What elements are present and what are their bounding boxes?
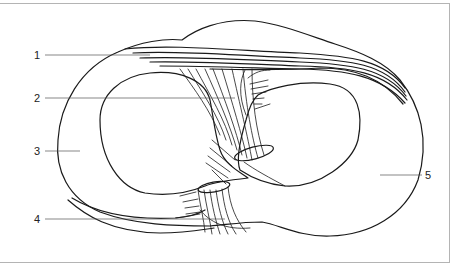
upper-ligament-fibers [180,69,264,160]
left-ring-lower-rim [68,200,214,233]
label-5: 5 [425,169,431,181]
label-1: 1 [34,49,40,61]
diagram: 1 2 3 4 5 [0,0,468,269]
lower-ligament-fibers [198,187,250,234]
label-4: 4 [34,213,40,225]
label-3: 3 [34,145,40,157]
outer-contour [58,21,424,237]
label-2: 2 [34,92,40,104]
